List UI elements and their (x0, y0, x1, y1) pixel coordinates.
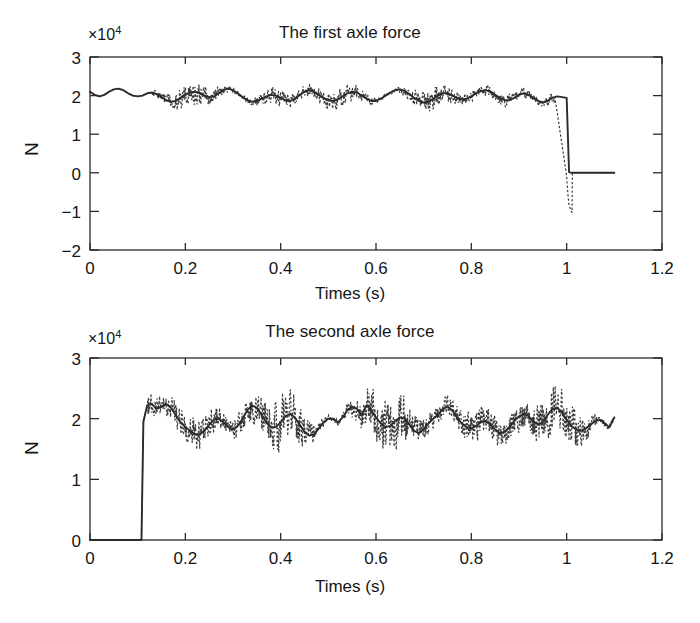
series-dotted-instantaneous-force (90, 84, 614, 212)
y-tick-label: 1 (72, 471, 81, 490)
x-tick-label: 0.8 (460, 549, 484, 568)
y-axis-exponent-second-axle: ×104 (88, 330, 121, 348)
chart-panel-first-axle: The first axle force ×104 N Times (s) 00… (0, 0, 700, 311)
x-axis-label-second-axle: Times (s) (0, 577, 700, 597)
x-tick-label: 0 (85, 259, 94, 278)
y-tick-label: 0 (72, 165, 81, 184)
axis-box (90, 57, 662, 250)
chart-panel-second-axle: The second axle force ×104 N Times (s) 0… (0, 311, 700, 623)
series-solid-mean-force (90, 404, 614, 540)
x-axis-label-first-axle: Times (s) (0, 284, 700, 304)
x-tick-label: 0.2 (174, 259, 198, 278)
y-tick-label: 0 (72, 532, 81, 551)
x-tick-label: 0 (85, 549, 94, 568)
y-axis-label-second-axle: N (21, 428, 43, 468)
y-tick-label: 3 (72, 350, 81, 369)
x-tick-label: 1 (562, 549, 571, 568)
y-tick-label: 2 (72, 411, 81, 430)
y-axis-label-first-axle: N (21, 129, 43, 169)
x-tick-label: 1.2 (650, 259, 674, 278)
x-tick-label: 0.4 (269, 259, 293, 278)
y-tick-label: −1 (62, 203, 81, 222)
x-tick-label: 0.6 (364, 259, 388, 278)
x-tick-label: 0.2 (174, 549, 198, 568)
y-tick-label: 1 (72, 126, 81, 145)
series-dotted-instantaneous-force (90, 386, 614, 540)
axis-box (90, 358, 662, 540)
x-tick-label: 1 (562, 259, 571, 278)
x-tick-label: 0.6 (364, 549, 388, 568)
y-tick-label: 2 (72, 88, 81, 107)
x-tick-label: 0.4 (269, 549, 293, 568)
y-axis-exponent-first-axle: ×104 (88, 26, 121, 44)
y-tick-label: 3 (72, 49, 81, 68)
x-tick-label: 1.2 (650, 549, 674, 568)
x-tick-label: 0.8 (460, 259, 484, 278)
plot-area-first-axle: 00.20.40.60.811.2−2−10123 (0, 0, 700, 311)
y-tick-label: −2 (62, 242, 81, 261)
figure-two-axle-forces: The first axle force ×104 N Times (s) 00… (0, 0, 700, 623)
